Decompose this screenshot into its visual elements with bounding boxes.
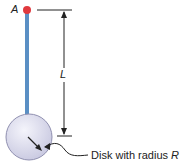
pendulum-diagram: A L Disk with radius R bbox=[0, 0, 194, 165]
disk bbox=[6, 114, 52, 160]
length-label: L bbox=[60, 68, 66, 80]
disk-caption: Disk with radius R bbox=[91, 149, 179, 161]
arrow-down-icon bbox=[61, 128, 67, 135]
point-a-label: A bbox=[11, 3, 18, 15]
diagram-graphic bbox=[0, 0, 194, 165]
pivot-point-a bbox=[23, 6, 31, 14]
caption-leader bbox=[45, 143, 88, 155]
arrow-up-icon bbox=[61, 11, 67, 18]
